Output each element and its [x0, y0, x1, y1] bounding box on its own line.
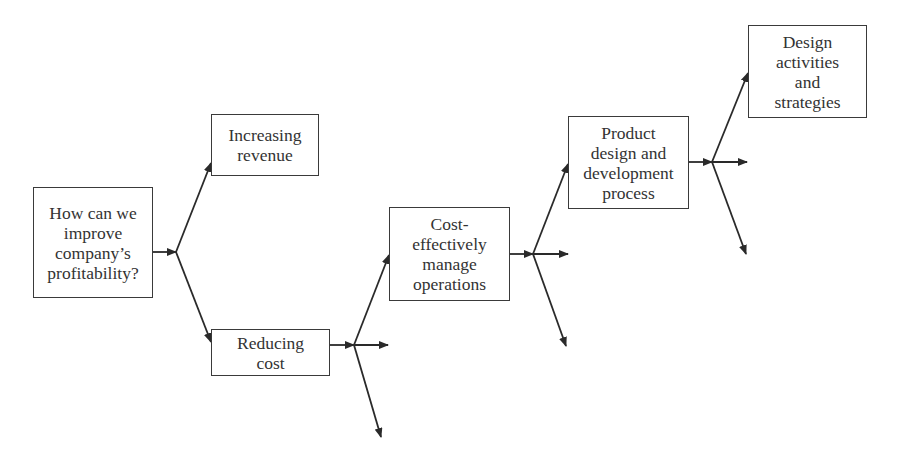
node-design-activities-strategies: Design activities and strategies — [748, 25, 867, 118]
node-root-question: How can we improve company’s profitabili… — [33, 187, 153, 298]
arrow-to-reducing-cost — [176, 252, 211, 342]
arrow-to-product-design — [533, 164, 568, 254]
arrow-cost-effectively-down — [533, 254, 566, 346]
arrow-reducing-cost-down — [354, 345, 381, 437]
arrow-product-design-down — [712, 162, 746, 254]
arrow-to-increasing-revenue — [176, 163, 211, 252]
node-cost-effectively-manage-operations: Cost- effectively manage operations — [389, 207, 510, 301]
node-increasing-revenue: Increasing revenue — [211, 114, 319, 176]
arrow-to-cost-effectively — [354, 255, 389, 345]
node-reducing-cost: Reducing cost — [211, 329, 330, 376]
arrow-to-design-activities — [712, 73, 748, 162]
node-product-design-development: Product design and development process — [568, 116, 689, 209]
